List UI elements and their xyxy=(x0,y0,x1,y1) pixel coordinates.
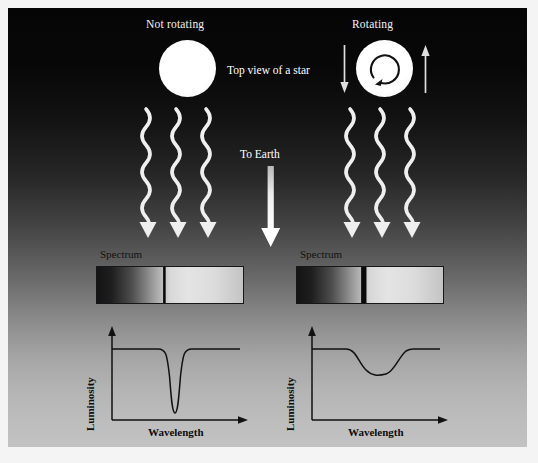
light-rays-left xyxy=(134,107,218,239)
line-profile-curve xyxy=(112,349,240,413)
figure-root: Not rotating Rotating Top view of a star xyxy=(0,0,538,463)
not-rotating-spectrum xyxy=(96,266,244,304)
wavy-arrow-down-icon xyxy=(346,109,354,227)
x-axis-label-left: Wavelength xyxy=(148,426,204,438)
circular-arrow-counterclockwise-icon xyxy=(356,40,413,97)
x-axis-arrowhead xyxy=(238,416,248,424)
light-rays-right xyxy=(338,107,422,239)
y-axis-label-left: Luminosity xyxy=(84,377,96,431)
diagram-panel: Not rotating Rotating Top view of a star xyxy=(8,8,527,447)
wavy-arrow-down-icon xyxy=(142,109,150,227)
right-star-title: Rotating xyxy=(352,18,393,30)
chart-not-rotating xyxy=(94,324,254,422)
chart-rotating xyxy=(294,324,454,422)
star-not-rotating xyxy=(159,40,216,97)
wavy-arrow-down-icon xyxy=(172,109,180,227)
arrow-up-icon xyxy=(419,44,432,94)
x-axis-label-right: Wavelength xyxy=(348,426,404,438)
y-axis-arrowhead xyxy=(108,326,116,336)
wavy-arrow-down-icon xyxy=(376,109,384,227)
center-caption: Top view of a star xyxy=(227,64,310,76)
y-axis-arrowhead xyxy=(308,326,316,336)
line-profile-curve xyxy=(312,349,440,375)
absorption-line xyxy=(361,267,366,303)
arrow-down-icon xyxy=(338,44,351,94)
wavy-arrow-down-icon xyxy=(406,109,414,227)
left-star-title: Not rotating xyxy=(146,18,204,30)
spectrum-label-left: Spectrum xyxy=(100,248,142,260)
wavy-arrow-down-icon xyxy=(202,109,210,227)
x-axis-arrowhead xyxy=(438,416,448,424)
y-axis-label-right: Luminosity xyxy=(284,377,296,431)
spectrum-label-right: Spectrum xyxy=(300,248,342,260)
absorption-line xyxy=(163,267,166,303)
rotating-spectrum xyxy=(296,266,444,304)
to-earth-label: To Earth xyxy=(240,148,280,160)
straight-arrow-down-icon xyxy=(260,166,282,248)
